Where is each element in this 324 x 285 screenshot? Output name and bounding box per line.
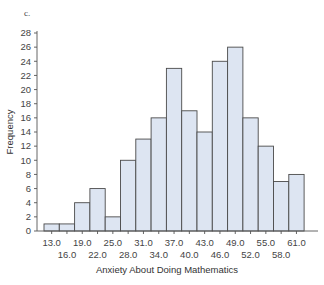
- histogram-bar: [258, 146, 273, 231]
- histogram-bar: [197, 132, 212, 231]
- histogram-bar: [44, 224, 59, 231]
- y-tick-label: 2: [26, 211, 31, 222]
- y-tick-label: 26: [20, 41, 31, 52]
- y-tick-label: 16: [20, 112, 31, 123]
- histogram-bar: [151, 118, 166, 231]
- y-tick-label: 8: [26, 169, 31, 180]
- histogram-bar: [228, 47, 243, 231]
- x-tick-label: 37.0: [165, 237, 184, 248]
- y-tick-label: 4: [26, 197, 31, 208]
- histogram-bar: [243, 118, 258, 231]
- x-tick-label: 40.0: [180, 249, 199, 260]
- histogram-bar: [166, 68, 181, 231]
- x-tick-label: 25.0: [104, 237, 123, 248]
- histogram-bar: [212, 61, 227, 231]
- y-tick-label: 24: [20, 56, 31, 67]
- histogram-bar: [136, 139, 151, 231]
- x-tick-label: 49.0: [226, 237, 245, 248]
- y-tick-label: 18: [20, 98, 31, 109]
- y-tick-label: 22: [20, 70, 31, 81]
- histogram-bar: [182, 111, 197, 231]
- y-axis-title: Frequency: [4, 109, 15, 154]
- histogram-bar: [121, 160, 136, 231]
- histogram-bar: [289, 174, 304, 231]
- histogram-bar: [274, 182, 289, 232]
- y-tick-label: 10: [20, 155, 31, 166]
- y-tick-label: 14: [20, 126, 31, 137]
- y-tick-label: 12: [20, 140, 31, 151]
- x-tick-label: 28.0: [119, 249, 138, 260]
- y-tick-label: 20: [20, 84, 31, 95]
- x-axis-title: Anxiety About Doing Mathematics: [96, 264, 238, 275]
- x-tick-label: 55.0: [257, 237, 276, 248]
- y-tick-label: 6: [26, 183, 31, 194]
- histogram-bar: [75, 203, 90, 231]
- x-tick-label: 43.0: [195, 237, 214, 248]
- x-tick-label: 52.0: [241, 249, 260, 260]
- histogram-chart: 024681012141618202224262813.016.019.022.…: [0, 0, 324, 285]
- x-tick-label: 58.0: [272, 249, 291, 260]
- histogram-bar: [90, 189, 105, 231]
- x-tick-label: 13.0: [42, 237, 61, 248]
- x-tick-label: 61.0: [287, 237, 306, 248]
- x-tick-label: 31.0: [134, 237, 153, 248]
- x-tick-label: 16.0: [58, 249, 77, 260]
- x-tick-label: 22.0: [88, 249, 107, 260]
- y-tick-label: 28: [20, 27, 31, 38]
- x-tick-label: 46.0: [211, 249, 230, 260]
- histogram-bar: [59, 224, 74, 231]
- x-tick-label: 19.0: [73, 237, 92, 248]
- y-tick-label: 0: [26, 225, 31, 236]
- histogram-bar: [105, 217, 120, 231]
- x-tick-label: 34.0: [150, 249, 169, 260]
